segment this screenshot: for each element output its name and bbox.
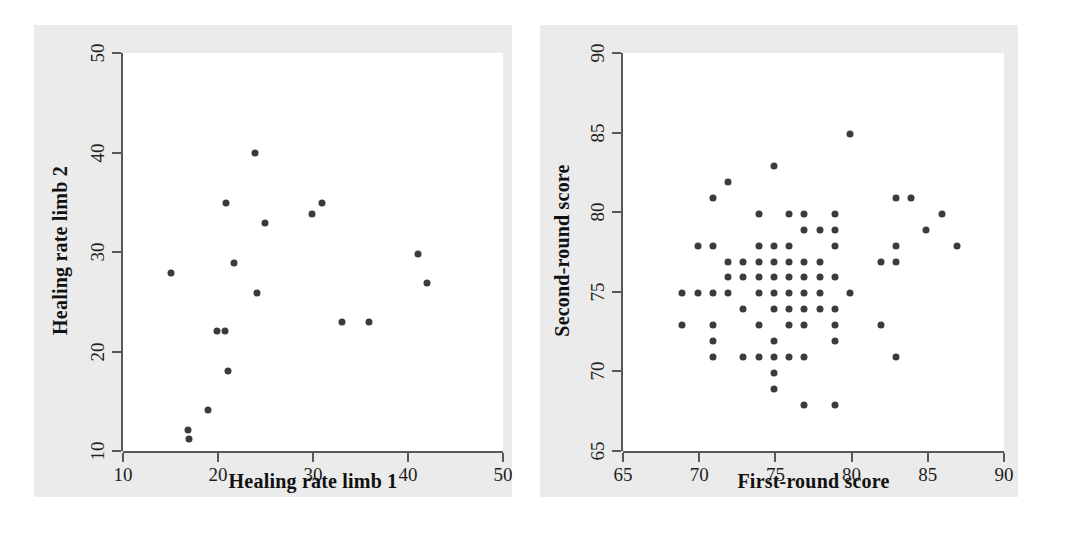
y-tick-label-healing-rate-0: 10 (87, 438, 109, 464)
data-point (770, 274, 777, 281)
data-point (786, 290, 793, 297)
data-point (770, 306, 777, 313)
data-point (801, 258, 808, 265)
x-axis-title-healing-rate: Healing rate limb 1 (229, 470, 398, 493)
data-point (366, 318, 373, 325)
x-tick-label-round-scores-1: 70 (690, 464, 709, 486)
chart-panel-healing-rate: 10203040501020304050Healing rate limb 1H… (34, 25, 512, 497)
data-point (847, 131, 854, 138)
x-tick-round-scores-2 (774, 453, 776, 462)
data-point (786, 242, 793, 249)
data-point (755, 258, 762, 265)
data-point (740, 258, 747, 265)
data-point (222, 200, 229, 207)
x-tick-label-round-scores-0: 65 (614, 464, 633, 486)
data-point (770, 354, 777, 361)
data-point (786, 322, 793, 329)
y-axis-title-round-scores: Second-round score (551, 151, 574, 351)
data-point (740, 306, 747, 313)
chart-panel-round-scores: 657075808590657075808590First-round scor… (540, 25, 1018, 497)
data-point (892, 354, 899, 361)
x-tick-round-scores-1 (698, 453, 700, 462)
data-point (725, 258, 732, 265)
data-point (847, 290, 854, 297)
x-tick-label-healing-rate-1: 20 (209, 464, 228, 486)
data-point (831, 306, 838, 313)
y-tick-label-healing-rate-3: 40 (87, 140, 109, 166)
data-point (184, 427, 191, 434)
y-tick-healing-rate-1 (112, 351, 121, 353)
y-tick-healing-rate-3 (112, 152, 121, 154)
data-point (755, 354, 762, 361)
figure-container: 10203040501020304050Healing rate limb 1H… (0, 0, 1070, 536)
data-point (831, 322, 838, 329)
data-point (709, 194, 716, 201)
data-point (755, 322, 762, 329)
data-point (214, 327, 221, 334)
y-tick-label-round-scores-2: 75 (587, 279, 609, 305)
y-tick-label-healing-rate-1: 20 (87, 339, 109, 365)
data-point (414, 250, 421, 257)
y-axis-title-healing-rate: Healing rate limb 2 (49, 151, 72, 351)
x-tick-label-round-scores-5: 90 (995, 464, 1014, 486)
x-tick-healing-rate-0 (122, 453, 124, 462)
data-point (831, 242, 838, 249)
data-point (816, 258, 823, 265)
y-tick-round-scores-2 (612, 291, 621, 293)
data-point (816, 274, 823, 281)
y-tick-round-scores-1 (612, 370, 621, 372)
data-point (709, 354, 716, 361)
data-point (877, 322, 884, 329)
x-tick-round-scores-0 (622, 453, 624, 462)
data-point (770, 258, 777, 265)
data-point (953, 242, 960, 249)
data-point (831, 274, 838, 281)
x-tick-label-healing-rate-0: 10 (114, 464, 133, 486)
data-point (831, 210, 838, 217)
data-point (261, 220, 268, 227)
data-point (801, 354, 808, 361)
data-point (770, 290, 777, 297)
data-point (816, 226, 823, 233)
y-tick-round-scores-4 (612, 132, 621, 134)
data-point (786, 354, 793, 361)
x-tick-healing-rate-3 (407, 453, 409, 462)
data-point (770, 385, 777, 392)
data-point (224, 368, 231, 375)
data-point (725, 178, 732, 185)
data-point (694, 242, 701, 249)
data-point (801, 322, 808, 329)
data-point (908, 194, 915, 201)
data-point (892, 194, 899, 201)
data-point (770, 163, 777, 170)
data-point (709, 338, 716, 345)
data-point (786, 210, 793, 217)
data-point (801, 290, 808, 297)
data-point (877, 258, 884, 265)
data-point (892, 242, 899, 249)
data-point (725, 274, 732, 281)
data-point (801, 401, 808, 408)
y-tick-label-healing-rate-4: 50 (87, 40, 109, 66)
data-point (831, 401, 838, 408)
data-point (831, 226, 838, 233)
y-tick-round-scores-3 (612, 211, 621, 213)
plot-area-healing-rate (123, 53, 503, 451)
y-tick-healing-rate-0 (112, 450, 121, 452)
y-tick-healing-rate-4 (112, 52, 121, 54)
data-point (801, 274, 808, 281)
plot-area-round-scores (623, 53, 1004, 451)
data-point (801, 210, 808, 217)
y-tick-label-healing-rate-2: 30 (87, 239, 109, 265)
data-point (801, 226, 808, 233)
x-axis-line-round-scores (623, 451, 1004, 453)
data-point (204, 407, 211, 414)
data-point (770, 242, 777, 249)
data-point (816, 290, 823, 297)
data-point (755, 242, 762, 249)
data-point (755, 210, 762, 217)
data-point (231, 259, 238, 266)
data-point (740, 354, 747, 361)
data-point (786, 306, 793, 313)
data-point (816, 306, 823, 313)
